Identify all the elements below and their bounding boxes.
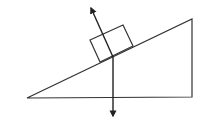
inclined-plane-diagram bbox=[0, 0, 207, 125]
block bbox=[90, 25, 133, 62]
